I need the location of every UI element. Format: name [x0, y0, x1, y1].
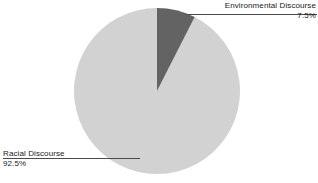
- callout-racial-value: 92.5%: [3, 159, 65, 169]
- callout-racial-label: Racial Discourse: [3, 149, 65, 159]
- pie-chart-figure: Environmental Discourse 7.5% Racial Disc…: [0, 0, 318, 183]
- callout-environmental-discourse: Environmental Discourse 7.5%: [225, 1, 316, 20]
- callout-environmental-value: 7.5%: [225, 11, 316, 21]
- pie-slice-racial-discourse[interactable]: [74, 8, 240, 174]
- callout-environmental-label: Environmental Discourse: [225, 1, 316, 11]
- callout-racial-discourse: Racial Discourse 92.5%: [3, 149, 65, 168]
